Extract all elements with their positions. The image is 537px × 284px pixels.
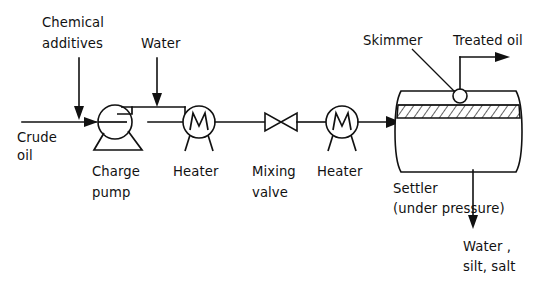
chemical-additives-arrow — [74, 58, 84, 120]
process-flow-diagram: Chemical additives Water Crude oil Charg… — [0, 0, 537, 284]
heater-1-symbol — [183, 106, 215, 151]
pump-discharge-line — [132, 107, 185, 122]
label-chemical-additives-line2: additives — [42, 36, 103, 51]
crude-oil-feed-line — [22, 117, 98, 127]
label-crude-oil-line1: Crude — [17, 130, 57, 145]
flow-diagram-canvas: Chemical additives Water Crude oil Charg… — [0, 0, 537, 284]
water-silt-salt-drain-line — [468, 170, 478, 229]
mixing-valve-symbol — [265, 113, 297, 131]
label-charge-pump-line2: pump — [92, 185, 130, 200]
water-inlet-arrow — [152, 58, 162, 107]
charge-pump-symbol — [94, 105, 142, 150]
skimmer-leader-line — [412, 49, 455, 92]
label-water-outlet-line2: silt, salt — [463, 259, 516, 274]
label-water-inlet: Water — [141, 36, 181, 51]
skimmer-symbol — [453, 89, 467, 103]
treated-oil-outlet-line — [460, 52, 510, 89]
label-settler-line1: Settler — [393, 181, 438, 196]
label-water-outlet-line1: Water , — [463, 239, 511, 254]
label-charge-pump-line1: Charge — [92, 164, 140, 179]
label-mixing-valve-line1: Mixing — [252, 164, 296, 179]
label-chemical-additives-line1: Chemical — [42, 15, 104, 30]
label-settler-line2: (under pressure) — [393, 201, 505, 216]
label-skimmer: Skimmer — [363, 33, 423, 48]
label-mixing-valve-line2: valve — [252, 185, 288, 200]
heater-2-symbol — [326, 106, 358, 151]
label-crude-oil-line2: oil — [17, 148, 33, 163]
label-heater-2: Heater — [317, 164, 363, 179]
label-treated-oil: Treated oil — [452, 33, 523, 48]
label-heater-1: Heater — [173, 164, 219, 179]
